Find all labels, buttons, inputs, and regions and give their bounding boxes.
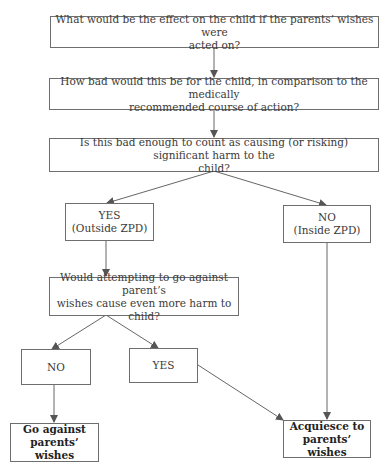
node-text: YES [72, 209, 148, 222]
outcome-acquiesce: Acquiesce toparents’ wishes [283, 420, 371, 458]
node-text: recommended course of action? [54, 101, 374, 114]
node-text: What would be the effect on the child if… [55, 13, 374, 39]
node-text: (Outside ZPD) [72, 222, 148, 235]
yes-more-harm: YES [129, 348, 198, 383]
outcome-go-against: Go againstparents’ wishes [10, 423, 99, 462]
node-text: NO [47, 361, 65, 374]
node-text: Would attempting to go against parent’s [54, 271, 234, 297]
arrow-q3-no [214, 171, 326, 205]
node-text: YES [153, 359, 175, 372]
node-text: (Inside ZPD) [294, 224, 361, 237]
node-text: acted on? [55, 39, 374, 52]
question-significant-harm: Is this bad enough to count as causing (… [49, 138, 379, 172]
node-text: parents’ wishes [288, 433, 366, 459]
no-inside-zpd: NO(Inside ZPD) [283, 205, 371, 243]
node-text: How bad would this be for the child, in … [54, 75, 374, 101]
node-text: Go against [15, 423, 94, 436]
arrow-yes2-acquiesce [198, 365, 283, 420]
question-effect-on-child: What would be the effect on the child if… [50, 16, 379, 48]
question-more-harm: Would attempting to go against parent’sw… [49, 277, 239, 316]
node-text: wishes cause even more harm to child? [54, 297, 234, 323]
yes-outside-zpd: YES(Outside ZPD) [65, 203, 154, 241]
no-more-harm: NO [21, 349, 91, 385]
arrow-q3-yes [107, 171, 214, 203]
node-text: parents’ wishes [15, 436, 94, 462]
node-text: Is this bad enough to count as causing (… [54, 136, 374, 162]
node-text: NO [294, 211, 361, 224]
node-text: child? [54, 162, 374, 175]
node-text: Acquiesce to [288, 420, 366, 433]
question-how-bad: How bad would this be for the child, in … [49, 78, 379, 110]
